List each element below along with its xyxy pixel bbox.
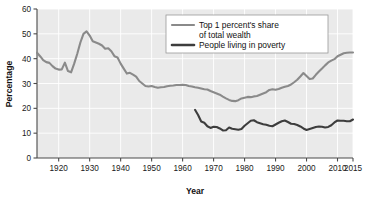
x-tick-label: 1920 [50, 164, 69, 173]
legend-label-top-one-percent-share-line1: Top 1 percent's share [199, 20, 279, 30]
x-tick-label: 1960 [173, 164, 192, 173]
x-tick-label: 1980 [235, 164, 254, 173]
y-axis-tick-labels: 0102030405060 [22, 5, 32, 163]
y-tick-label: 0 [26, 154, 31, 163]
y-tick-label: 30 [22, 80, 32, 89]
x-axis-tick-labels: 1920193019401950196019701980199020002010… [50, 164, 363, 173]
line-chart: 0102030405060 19201930194019501960197019… [0, 0, 374, 203]
legend-label-people-living-in-poverty: People living in poverty [199, 40, 286, 50]
x-tick-label: 1950 [143, 164, 162, 173]
y-tick-label: 60 [22, 5, 32, 14]
chart-container: 0102030405060 19201930194019501960197019… [0, 0, 374, 203]
x-axis-title: Year [186, 186, 205, 196]
y-tick-label: 10 [22, 129, 32, 138]
y-tick-label: 50 [22, 30, 32, 39]
y-tick-label: 20 [22, 104, 32, 113]
x-tick-label: 1970 [204, 164, 223, 173]
x-tick-label: 1990 [266, 164, 285, 173]
y-tick-label: 40 [22, 55, 32, 64]
chart-legend: Top 1 percent's share of total wealth Pe… [166, 15, 328, 53]
x-tick-label: 1930 [81, 164, 100, 173]
legend-label-top-one-percent-share-line2: of total wealth [199, 30, 251, 40]
x-tick-label: 2000 [297, 164, 316, 173]
y-axis-title: Percentage [4, 61, 14, 108]
x-tick-label: 2015 [344, 164, 363, 173]
x-tick-label: 1940 [112, 164, 131, 173]
